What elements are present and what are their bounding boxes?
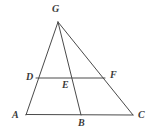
vertex-label-e: E [62, 80, 69, 90]
vertex-label-f: F [110, 70, 117, 80]
vertex-label-d: D [26, 72, 33, 82]
segment-ac [26, 115, 133, 116]
geometry-canvas [0, 0, 155, 133]
vertex-label-c: C [138, 110, 145, 120]
geometry-figure: G D E F A B C [0, 0, 155, 133]
vertex-label-g: G [52, 4, 59, 14]
segment-ga [26, 22, 58, 115]
vertex-label-a: A [12, 110, 19, 120]
vertex-label-b: B [78, 118, 85, 128]
